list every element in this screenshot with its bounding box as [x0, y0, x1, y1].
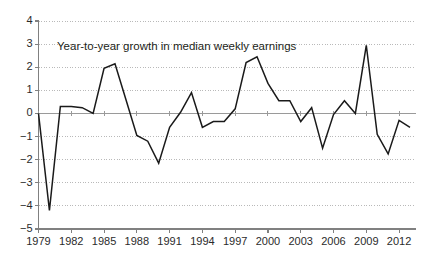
y-axis-tick-label: 4 [11, 15, 33, 26]
y-axis-tick-label: −2 [11, 154, 33, 165]
x-axis-tick-label: 1994 [185, 236, 219, 247]
chart-container: 43210−1−2−3−4−5 197919821985198819911994… [0, 0, 423, 266]
y-axis-tick-label: 2 [11, 61, 33, 72]
x-axis-tick-label: 2000 [251, 236, 285, 247]
x-axis-tick-label: 2006 [317, 236, 351, 247]
x-axis-tick-label: 2009 [349, 236, 383, 247]
x-axis-tick-label: 1988 [120, 236, 154, 247]
y-axis-tick-label: −4 [11, 200, 33, 211]
y-axis-tick-label: 3 [11, 38, 33, 49]
x-axis-tick-label: 2012 [382, 236, 416, 247]
x-axis-tick-label: 1985 [87, 236, 121, 247]
x-axis-tick-label: 1982 [54, 236, 88, 247]
chart-annotation-label: Year-to-year growth in median weekly ear… [57, 40, 296, 53]
x-axis-tick-label: 1991 [153, 236, 187, 247]
x-axis-tick-label: 2003 [284, 236, 318, 247]
y-axis-tick-label: −1 [11, 131, 33, 142]
y-axis-tick-label: −3 [11, 177, 33, 188]
x-axis-tick-label: 1997 [218, 236, 252, 247]
x-axis-ticks [39, 229, 400, 233]
data-series-line [39, 45, 411, 210]
x-axis-tick-label: 1979 [22, 236, 56, 247]
y-axis-tick-label: 0 [11, 107, 33, 118]
y-axis-tick-label: −5 [11, 223, 33, 234]
y-axis-tick-label: 1 [11, 84, 33, 95]
